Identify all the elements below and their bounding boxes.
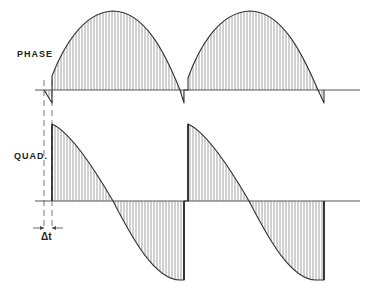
quad-label: QUAD. xyxy=(14,151,48,161)
phase-label: PHASE xyxy=(17,49,53,59)
quad-cycle-2-fill xyxy=(188,124,324,280)
quad-cycle-1-fill xyxy=(52,124,184,280)
phase-quadrature-diagram: PHASE QUAD. Δt xyxy=(0,0,372,288)
arrow-left-head-icon xyxy=(40,226,44,230)
delta-t-label: Δt xyxy=(41,231,52,242)
arrow-right-head-icon xyxy=(52,226,56,230)
quad-trace xyxy=(35,124,360,280)
phase-trace xyxy=(35,11,360,103)
phase-lobe-1-fill xyxy=(52,11,180,90)
